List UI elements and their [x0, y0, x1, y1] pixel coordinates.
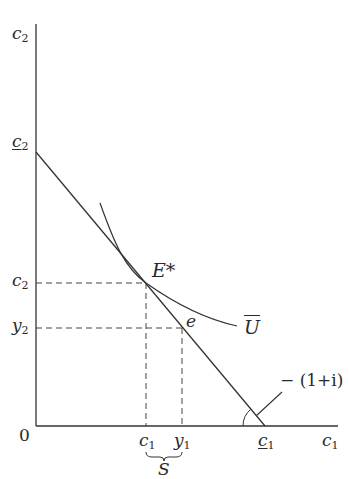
y1-tick-label: y1 — [174, 432, 191, 451]
savings-label: S — [158, 461, 170, 478]
y-intercept-label: c2 — [12, 133, 29, 152]
slope-angle-arc — [243, 409, 251, 426]
c1-tick-label: c1 — [139, 432, 156, 451]
x-intercept-label: c1 — [258, 432, 275, 451]
budget-line — [36, 152, 265, 426]
endowment-label: e — [186, 313, 196, 330]
slope-label: − (1+i) — [280, 372, 343, 389]
y-axis-label: c2 — [12, 25, 29, 44]
x-axis-label: c1 — [322, 432, 339, 451]
c2-tick-label: c2 — [12, 272, 29, 291]
slope-leader-line — [256, 392, 282, 416]
indifference-label: U — [244, 318, 260, 337]
optimum-label: E* — [152, 261, 175, 280]
y2-tick-label: y2 — [12, 317, 29, 336]
origin-label: 0 — [19, 427, 30, 444]
